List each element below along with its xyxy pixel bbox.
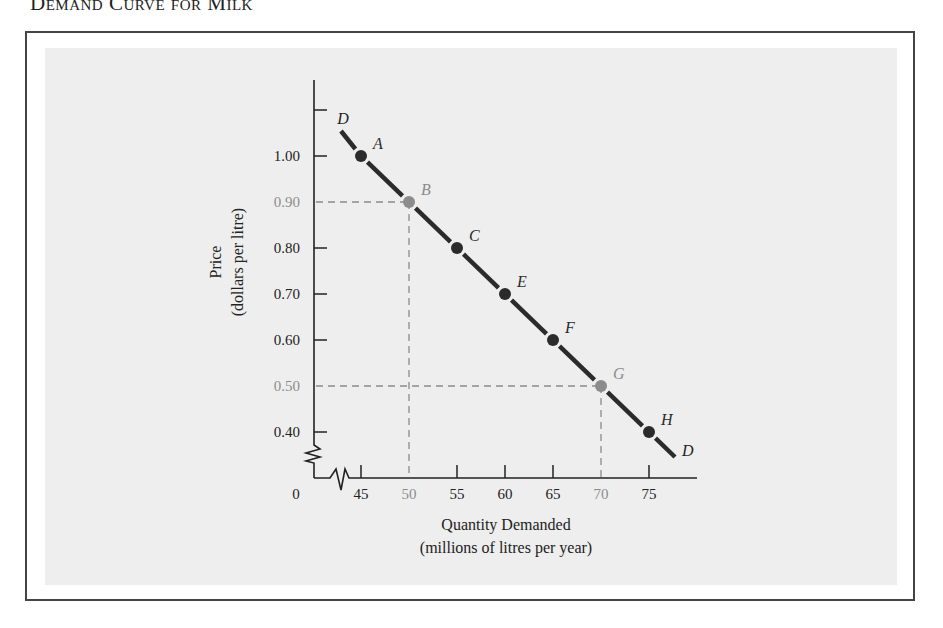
point-label-h: H <box>660 411 674 428</box>
point-b <box>403 196 415 208</box>
demand-curve-segment <box>367 162 402 196</box>
y-tick-label: 0.60 <box>274 332 300 348</box>
curve-label-end: D <box>681 442 694 459</box>
x-tick-label: 0 <box>292 486 300 502</box>
point-e <box>499 288 511 300</box>
demand-curve-segment <box>463 254 498 288</box>
y-tick-label: 1.00 <box>274 148 300 164</box>
x-tick-label: 70 <box>594 486 609 502</box>
y-tick-label: 0.40 <box>274 424 300 440</box>
x-tick-label: 45 <box>354 486 369 502</box>
demand-curve-segment <box>511 300 546 334</box>
x-axis-title: Quantity Demanded <box>441 516 570 534</box>
demand-curve-segment <box>341 131 355 149</box>
point-label-g: G <box>613 365 625 382</box>
demand-curve-segment <box>607 392 642 426</box>
y-tick-label: 0.70 <box>274 286 300 302</box>
x-tick-label: 65 <box>546 486 561 502</box>
y-axis-subtitle: (dollars per litre) <box>229 208 247 316</box>
y-axis-title: Price <box>207 246 224 279</box>
point-label-b: B <box>421 181 431 198</box>
y-tick-label: 0.50 <box>274 378 300 394</box>
point-h <box>643 426 655 438</box>
x-tick-label: 55 <box>450 486 465 502</box>
x-tick-label: 50 <box>402 486 417 502</box>
demand-chart: 0.400.500.600.700.800.901.00045505560657… <box>0 0 943 628</box>
demand-curve-segment <box>559 346 594 380</box>
point-a <box>355 150 367 162</box>
point-c <box>451 242 463 254</box>
point-label-c: C <box>469 227 480 244</box>
curve-label-start: D <box>336 110 349 127</box>
x-tick-label: 60 <box>498 486 513 502</box>
y-tick-label: 0.80 <box>274 240 300 256</box>
x-tick-label: 75 <box>642 486 657 502</box>
point-label-f: F <box>564 319 575 336</box>
demand-curve-segment <box>415 208 450 242</box>
point-label-a: A <box>372 135 383 152</box>
point-g <box>595 380 607 392</box>
y-tick-label: 0.90 <box>274 194 300 210</box>
x-axis-subtitle: (millions of litres per year) <box>420 539 592 557</box>
point-f <box>547 334 559 346</box>
y-axis <box>306 80 320 478</box>
point-label-e: E <box>516 273 527 290</box>
demand-curve-segment <box>655 438 675 457</box>
